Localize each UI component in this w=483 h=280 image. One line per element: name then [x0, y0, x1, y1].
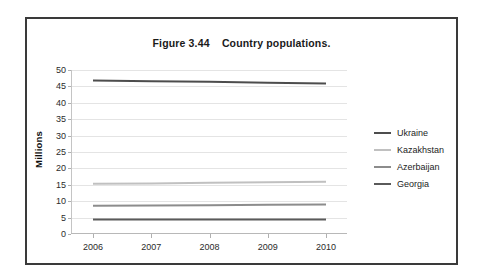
legend-label: Georgia	[397, 179, 429, 189]
x-tick-mark	[93, 234, 94, 238]
x-tick-label: 2010	[316, 242, 336, 252]
series-lines	[71, 70, 347, 234]
legend-swatch-icon	[374, 132, 391, 134]
y-tick-label: 50	[56, 65, 66, 75]
legend-item-georgia[interactable]: Georgia	[374, 175, 452, 192]
figure-title: Figure 3.44 Country populations.	[27, 37, 456, 49]
y-tick-label: 30	[56, 131, 66, 141]
legend-label: Kazakhstan	[397, 145, 444, 155]
legend-item-kazakhstan[interactable]: Kazakhstan	[374, 141, 452, 158]
legend-swatch-icon	[374, 166, 391, 168]
y-tick-label: 45	[56, 81, 66, 91]
y-tick-label: 35	[56, 114, 66, 124]
legend-label: Ukraine	[397, 128, 428, 138]
figure-frame: Figure 3.44 Country populations. Million…	[25, 17, 458, 265]
x-tick-label: 2006	[83, 242, 103, 252]
y-tick-label: 10	[56, 196, 66, 206]
x-tick-mark	[268, 234, 269, 238]
y-axis-title: Millions	[33, 131, 44, 168]
x-tick-mark	[210, 234, 211, 238]
y-tick-mark	[68, 234, 71, 235]
plot-area: 05101520253035404550 2006200720082009201…	[71, 70, 347, 234]
y-tick-label: 25	[56, 147, 66, 157]
legend-swatch-icon	[374, 149, 391, 151]
legend: UkraineKazakhstanAzerbaijanGeorgia	[374, 124, 452, 192]
x-tick-label: 2009	[258, 242, 278, 252]
legend-item-azerbaijan[interactable]: Azerbaijan	[374, 158, 452, 175]
y-tick-label: 0	[61, 229, 66, 239]
x-tick-mark	[151, 234, 152, 238]
legend-swatch-icon	[374, 183, 391, 185]
y-tick-label: 40	[56, 98, 66, 108]
series-line-azerbaijan	[93, 204, 326, 205]
y-tick-label: 5	[61, 213, 66, 223]
legend-label: Azerbaijan	[397, 162, 440, 172]
x-tick-label: 2008	[199, 242, 219, 252]
y-tick-label: 20	[56, 163, 66, 173]
x-tick-mark	[326, 234, 327, 238]
series-line-ukraine	[93, 81, 326, 84]
series-line-kazakhstan	[93, 182, 326, 184]
legend-item-ukraine[interactable]: Ukraine	[374, 124, 452, 141]
y-tick-label: 15	[56, 180, 66, 190]
x-tick-label: 2007	[141, 242, 161, 252]
